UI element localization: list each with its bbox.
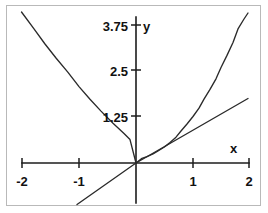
y-tick-label-1-25: 1.25 [103, 110, 128, 125]
y-tick-label-2-5: 2.5 [110, 64, 128, 79]
x-tick-label-2: 2 [245, 174, 252, 189]
x-tick-label--1: -1 [73, 174, 85, 189]
x-tick-label-1: 1 [189, 174, 196, 189]
y-axis-label: y [143, 19, 151, 34]
figure-root: 3.75 2.5 1.25 -2 -1 1 2 x y [0, 0, 268, 213]
graph-canvas: 3.75 2.5 1.25 -2 -1 1 2 x y [0, 0, 268, 213]
parabola-curve [22, 12, 249, 163]
x-tick-label--2: -2 [16, 174, 28, 189]
x-axis-label: x [230, 141, 238, 156]
y-tick-label-3-75: 3.75 [103, 19, 128, 34]
